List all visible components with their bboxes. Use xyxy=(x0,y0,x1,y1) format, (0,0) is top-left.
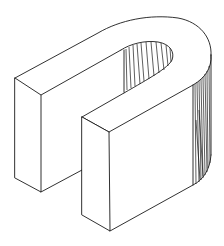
curved-end xyxy=(193,55,211,185)
figure-canvas: isometric U-shaped block xyxy=(0,0,224,246)
curved-end-hatching xyxy=(195,66,210,184)
inner-slot xyxy=(121,41,173,93)
slot-hatching xyxy=(126,42,171,90)
top-surface xyxy=(15,17,211,132)
u-block-drawing xyxy=(0,0,224,246)
left-arm xyxy=(15,78,82,192)
right-arm xyxy=(82,117,211,231)
